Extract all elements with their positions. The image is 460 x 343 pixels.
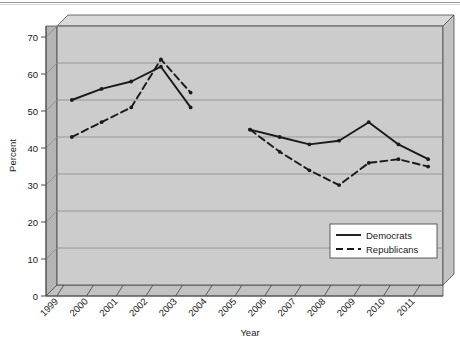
data-point-democrats <box>70 98 74 102</box>
data-point-democrats <box>129 80 133 84</box>
x-axis-tick-label: 2011 <box>394 296 416 318</box>
y-axis-tick-label: 30 <box>27 180 38 191</box>
legend-label-democrats: Democrats <box>366 230 412 241</box>
x-axis-tick-label: 2008 <box>305 296 328 319</box>
data-point-republicans <box>129 106 133 110</box>
x-axis-tick-label: 2003 <box>156 296 179 319</box>
y-axis-tick-label: 40 <box>27 143 38 154</box>
chart-canvas: 0102030405060701999200020012002200320042… <box>0 0 460 343</box>
data-point-democrats <box>159 65 163 69</box>
data-point-republicans <box>159 57 163 61</box>
plot-bevel-top <box>57 15 454 26</box>
y-axis-tick-label: 10 <box>27 254 38 265</box>
data-point-republicans <box>278 150 282 154</box>
line-chart: 0102030405060701999200020012002200320042… <box>0 0 460 343</box>
data-point-republicans <box>189 91 193 95</box>
x-axis-tick-label: 2010 <box>364 296 387 319</box>
data-point-democrats <box>100 87 104 91</box>
y-axis-tick-label: 60 <box>27 69 38 80</box>
x-axis-tick-label: 1999 <box>38 296 61 319</box>
x-axis-tick-label: 2000 <box>67 296 90 319</box>
data-point-democrats <box>397 143 401 147</box>
y-axis-tick-label: 50 <box>27 106 38 117</box>
legend-label-republicans: Republicans <box>366 244 419 255</box>
x-axis-tick-label: 2009 <box>334 296 357 319</box>
plot-bevel-right <box>443 15 454 285</box>
y-axis-tick-label: 70 <box>27 32 38 43</box>
data-point-republicans <box>367 161 371 165</box>
data-point-democrats <box>426 157 430 161</box>
data-point-democrats <box>278 135 282 139</box>
data-point-republicans <box>70 135 74 139</box>
data-point-republicans <box>426 165 430 169</box>
y-axis-tick-label: 20 <box>27 217 38 228</box>
data-point-republicans <box>100 120 104 124</box>
x-axis-title: Year <box>240 327 259 338</box>
x-axis-tick-label: 2001 <box>97 296 120 319</box>
x-axis-tick-label: 2006 <box>245 296 268 319</box>
data-point-republicans <box>307 168 311 172</box>
data-point-democrats <box>189 106 193 110</box>
data-point-democrats <box>337 139 341 143</box>
y-axis-title: Percent <box>7 139 18 172</box>
data-point-republicans <box>337 183 341 187</box>
x-axis-tick-label: 2002 <box>127 296 150 319</box>
x-axis-tick-label: 2005 <box>216 296 239 319</box>
y-axis-tick-label: 0 <box>33 291 38 302</box>
data-point-democrats <box>367 120 371 124</box>
data-point-republicans <box>397 157 401 161</box>
data-point-republicans <box>248 128 252 132</box>
x-axis-tick-label: 2004 <box>186 296 209 319</box>
plot-bevel-left <box>46 26 57 296</box>
x-axis-tick-label: 2007 <box>275 296 298 319</box>
plot-bevel-bottom <box>46 285 443 296</box>
data-point-democrats <box>307 143 311 147</box>
